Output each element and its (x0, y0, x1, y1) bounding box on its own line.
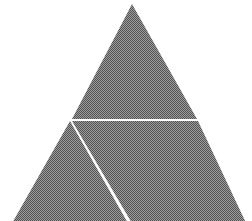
triangle-diagram: A large solid gray triangle, rendered wi… (0, 0, 252, 221)
figure-canvas: A large solid gray triangle, rendered wi… (0, 0, 252, 221)
